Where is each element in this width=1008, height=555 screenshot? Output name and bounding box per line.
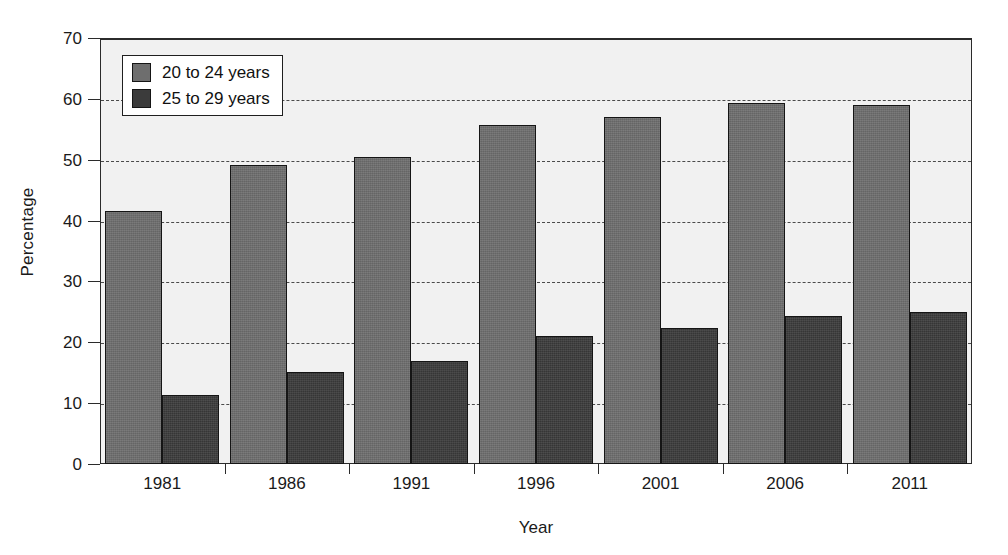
y-axis-tick (88, 464, 100, 465)
legend-label-series-a: 20 to 24 years (162, 64, 270, 81)
bar-2001-series-2 (661, 328, 718, 464)
bar-1996-series-1 (479, 125, 536, 464)
legend-item-20-to-24: 20 to 24 years (132, 63, 270, 82)
y-axis-tick (88, 221, 100, 222)
bar-1991-series-1 (354, 157, 411, 464)
y-axis-tick-label: 30 (34, 273, 82, 290)
y-axis-tick-label: 60 (34, 91, 82, 108)
bar-2001-series-1 (604, 117, 661, 464)
x-axis-tick-label: 1981 (143, 474, 181, 494)
bar-group-2011 (853, 38, 967, 464)
bar-2006-series-1 (728, 103, 785, 464)
x-axis-minor-tick (598, 464, 599, 474)
x-axis-minor-tick (723, 464, 724, 474)
x-axis-tick-label: 2011 (891, 474, 928, 494)
bar-group-2001 (604, 38, 718, 464)
y-axis-tick (88, 342, 100, 343)
bar-1986-series-1 (230, 165, 287, 464)
x-axis-title-text: Year (519, 518, 553, 537)
y-axis-tick-label: 10 (34, 395, 82, 412)
y-axis-tick (88, 160, 100, 161)
x-axis-tick-label: 1996 (517, 474, 555, 494)
bar-1991-series-2 (411, 361, 468, 464)
x-axis-minor-tick (474, 464, 475, 474)
y-axis-tick-label: 70 (34, 30, 82, 47)
bar-1981-series-1 (105, 211, 162, 464)
bar-1981-series-2 (162, 395, 219, 464)
bar-1986-series-2 (287, 372, 344, 464)
bar-1996-series-2 (536, 336, 593, 464)
bar-chart: Percentage 010203040506070 1981198619911… (0, 0, 1008, 555)
x-axis-minor-tick (349, 464, 350, 474)
x-axis-title: Year (100, 518, 972, 538)
y-axis-title-text: Percentage (18, 188, 38, 277)
x-axis-tick-label: 2006 (766, 474, 804, 494)
bar-2006-series-2 (785, 316, 842, 464)
y-axis-tick (88, 281, 100, 282)
x-axis-tick-label: 1991 (393, 474, 431, 494)
legend: 20 to 24 years 25 to 29 years (122, 55, 283, 116)
legend-label-series-b: 25 to 29 years (162, 90, 270, 107)
y-axis-tick-label: 0 (34, 456, 82, 473)
x-axis-tick-label: 2001 (642, 474, 680, 494)
y-axis-tick-label: 20 (34, 334, 82, 351)
y-axis-tick (88, 38, 100, 39)
legend-swatch-icon-series-a (132, 63, 151, 82)
bar-group-1991 (354, 38, 468, 464)
y-axis-tick-label: 40 (34, 213, 82, 230)
x-axis-minor-tick (225, 464, 226, 474)
bar-group-1996 (479, 38, 593, 464)
y-axis-tick-label: 50 (34, 152, 82, 169)
legend-item-25-to-29: 25 to 29 years (132, 89, 270, 108)
y-axis-tick (88, 403, 100, 404)
bar-group-2006 (728, 38, 842, 464)
x-axis-minor-tick (847, 464, 848, 474)
legend-swatch-icon-series-b (132, 89, 151, 108)
bar-2011-series-1 (853, 105, 910, 464)
bar-2011-series-2 (910, 312, 967, 464)
y-axis-tick (88, 99, 100, 100)
x-axis-tick-label: 1986 (268, 474, 306, 494)
